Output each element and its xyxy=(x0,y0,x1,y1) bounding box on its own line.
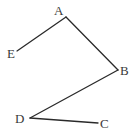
segment-BD xyxy=(30,70,118,118)
label-A: A xyxy=(54,3,64,18)
label-E: E xyxy=(7,46,15,61)
label-D: D xyxy=(15,111,24,126)
segments xyxy=(17,17,118,123)
segment-DC xyxy=(30,118,98,123)
segment-EA xyxy=(17,17,66,51)
geometry-diagram: A B C D E xyxy=(0,0,139,132)
label-B: B xyxy=(120,63,129,78)
label-C: C xyxy=(100,116,109,131)
point-labels: A B C D E xyxy=(7,3,129,131)
segment-AB xyxy=(66,17,118,70)
